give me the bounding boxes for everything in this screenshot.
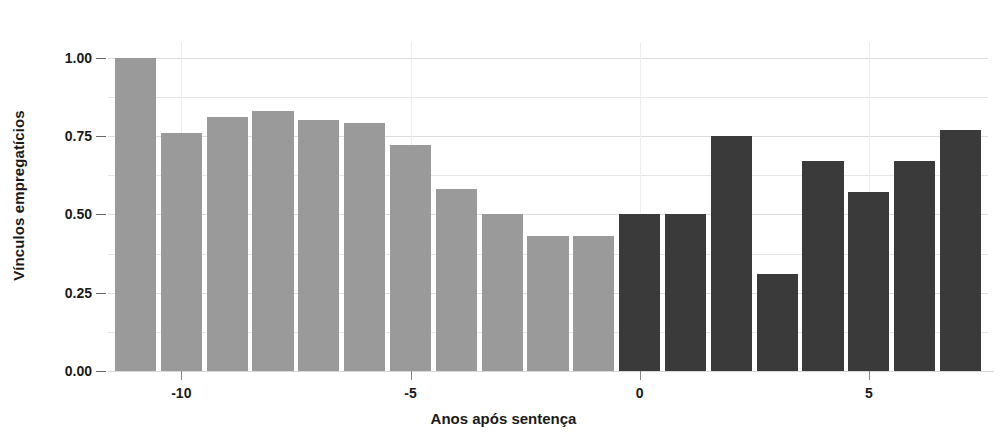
bar--8 (252, 111, 293, 371)
bar-4 (802, 161, 843, 371)
y-tick-mark-2 (96, 214, 106, 215)
bar--10 (161, 133, 202, 371)
y-tick-label-0: 0.00 (48, 363, 92, 379)
bar-chart: Vínculos empregatícios Anos após sentenç… (0, 0, 1007, 445)
x-tick-mark-3 (869, 371, 870, 380)
bar--1 (573, 236, 614, 371)
x-tick-label-3: 5 (865, 385, 873, 401)
gridline-minor (108, 97, 988, 98)
y-tick-label-3: 0.75 (48, 128, 92, 144)
x-tick-label-1: -5 (404, 385, 416, 401)
y-axis-title-text: Vínculos empregatícios (10, 110, 27, 281)
y-axis-title: Vínculos empregatícios (4, 0, 32, 390)
y-tick-mark-4 (96, 58, 106, 59)
y-tick-label-4: 1.00 (48, 50, 92, 66)
bar-1 (665, 214, 706, 371)
bar--2 (527, 236, 568, 371)
x-tick-mark-2 (640, 371, 641, 380)
bar--6 (344, 123, 385, 371)
y-tick-mark-0 (96, 371, 106, 372)
gridline-major (108, 58, 988, 59)
x-tick-mark-1 (411, 371, 412, 380)
bar--4 (436, 189, 477, 371)
plot-area (108, 42, 988, 371)
bar-3 (757, 274, 798, 371)
x-axis-line (108, 371, 994, 372)
bar-6 (894, 161, 935, 371)
y-tick-mark-1 (96, 293, 106, 294)
x-axis-title: Anos após sentença (0, 410, 1007, 427)
bar-7 (940, 130, 981, 371)
y-tick-label-2: 0.50 (48, 206, 92, 222)
bar-5 (848, 192, 889, 371)
x-tick-label-0: -10 (171, 385, 191, 401)
y-tick-label-1: 0.25 (48, 285, 92, 301)
bar--7 (298, 120, 339, 371)
bar--5 (390, 145, 431, 371)
bar--9 (207, 117, 248, 371)
bar--11 (115, 58, 156, 371)
bar-2 (711, 136, 752, 371)
bar--3 (482, 214, 523, 371)
y-tick-mark-3 (96, 136, 106, 137)
x-tick-mark-0 (181, 371, 182, 380)
x-tick-label-2: 0 (636, 385, 644, 401)
bar-0 (619, 214, 660, 371)
